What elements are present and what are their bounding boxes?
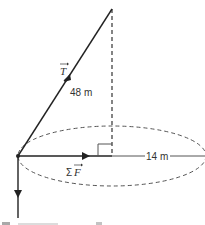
net-force-label-text: F <box>73 166 81 178</box>
right-angle-marker <box>98 144 112 156</box>
radius-label: 14 m <box>146 151 168 162</box>
tension-label: T <box>60 63 69 78</box>
mass-point <box>16 154 20 158</box>
tension-label-text: T <box>60 65 67 77</box>
string-line <box>18 9 112 156</box>
length-label: 48 m <box>70 87 92 98</box>
sigma-label: Σ <box>66 167 72 178</box>
net-force-label: Σ F <box>66 164 83 179</box>
net-force-arrow-icon <box>82 152 90 160</box>
gravity-label-cut <box>2 222 102 225</box>
diagram-canvas: T 48 m Σ F 14 m <box>0 0 205 225</box>
gravity-arrow-icon <box>14 190 22 198</box>
